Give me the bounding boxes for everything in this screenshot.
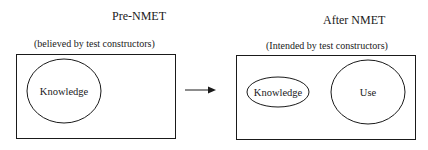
diagram-canvas: Knowledge Knowledge Use	[0, 0, 428, 150]
after-knowledge-label: Knowledge	[254, 87, 303, 98]
after-use-label: Use	[360, 87, 377, 98]
arrow-right-icon	[185, 87, 216, 94]
pre-knowledge-label: Knowledge	[40, 86, 89, 97]
